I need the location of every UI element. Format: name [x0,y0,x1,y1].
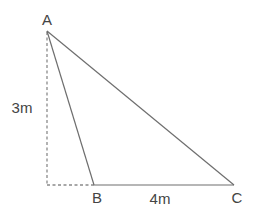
height-measurement-label: 3m [12,99,33,116]
vertex-label-a: A [42,11,52,28]
vertex-label-b: B [92,189,102,206]
triangle-diagram: A B C 3m 4m [0,0,255,215]
side-ab [47,31,94,185]
side-ac [47,31,234,185]
base-measurement-label: 4m [150,190,171,207]
vertex-label-c: C [232,189,243,206]
